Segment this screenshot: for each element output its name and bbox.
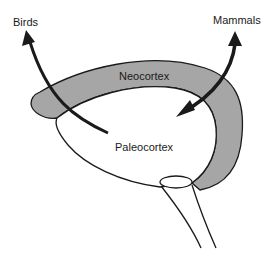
label-neocortex: Neocortex: [119, 70, 170, 82]
label-paleocortex: Paleocortex: [115, 141, 174, 153]
brain-evolution-diagram: Birds Mammals Neocortex Paleocortex: [0, 0, 271, 262]
arrowhead-icon: [228, 31, 242, 46]
arrowhead-icon: [22, 30, 35, 46]
label-birds: Birds: [13, 16, 39, 28]
label-mammals: Mammals: [213, 14, 261, 26]
